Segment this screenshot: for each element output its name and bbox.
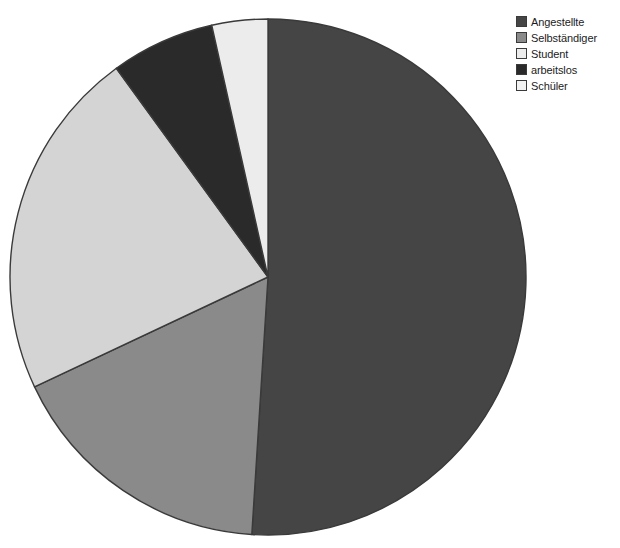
legend-swatch-icon [516,64,527,75]
legend-item-arbeitslos[interactable]: arbeitslos [516,62,620,77]
pie-slice-group [10,19,526,535]
legend-swatch-icon [516,32,527,43]
chart-legend: Angestellte Selbständiger Student arbeit… [516,14,620,93]
pie-plot-area [0,0,545,548]
legend-item-label: Student [531,48,568,60]
pie-svg [0,0,545,548]
legend-item-schueler[interactable]: Schüler [516,78,620,93]
legend-item-label: Schüler [531,80,568,92]
legend-swatch-icon [516,16,527,27]
legend-item-label: Angestellte [531,16,584,28]
legend-item-label: arbeitslos [531,64,577,76]
pie-slice[interactable] [252,19,526,535]
pie-chart-figure: Angestellte Selbständiger Student arbeit… [0,0,620,548]
legend-item-label: Selbständiger [531,32,597,44]
legend-swatch-icon [516,80,527,91]
legend-swatch-icon [516,48,527,59]
legend-item-student[interactable]: Student [516,46,620,61]
legend-item-angestellte[interactable]: Angestellte [516,14,620,29]
legend-item-selbstaendiger[interactable]: Selbständiger [516,30,620,45]
